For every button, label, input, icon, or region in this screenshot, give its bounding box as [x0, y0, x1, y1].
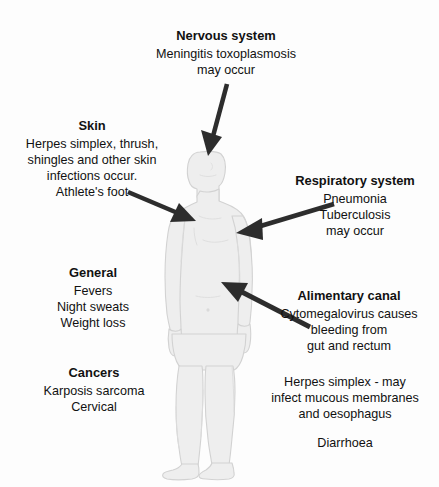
callout-respiratory-line-3: may occur [274, 223, 436, 239]
callout-extra-spacer [256, 422, 434, 435]
callout-general: General Fevers Night sweats Weight loss [22, 265, 164, 331]
callout-skin: Skin Herpes simplex, thrush, shingles an… [4, 118, 180, 200]
callout-alimentary-title: Alimentary canal [262, 288, 436, 305]
callout-nervous-line-2: may occur [142, 62, 310, 78]
callout-extra-line-1: Herpes simplex - may [256, 374, 434, 390]
callout-respiratory-line-1: Pneumonia [274, 191, 436, 207]
callout-general-line-3: Weight loss [22, 315, 164, 331]
callout-nervous-title: Nervous system [142, 28, 310, 45]
callout-skin-line-3: infections occur. [4, 168, 180, 184]
callout-herpes-diarrhoea: Herpes simplex - may infect mucous membr… [256, 374, 434, 451]
callout-alimentary-line-1: Cytomegalovirus causes [262, 306, 436, 322]
callout-skin-line-1: Herpes simplex, thrush, [4, 136, 180, 152]
callout-alimentary-line-2: bleeding from [262, 322, 436, 338]
callout-general-line-2: Night sweats [22, 299, 164, 315]
callout-nervous-line-1: Meningitis toxoplasmosis [142, 46, 310, 62]
callout-extra-line-3: and oesophagus [256, 406, 434, 422]
callout-general-line-1: Fevers [22, 283, 164, 299]
callout-cancers-line-2: Cervical [16, 399, 172, 415]
arrow-to-head [201, 84, 227, 156]
callout-cancers-title: Cancers [16, 365, 172, 382]
callout-skin-title: Skin [4, 118, 180, 135]
callout-skin-line-2: shingles and other skin [4, 152, 180, 168]
callout-skin-line-4: Athlete's foot [4, 184, 180, 200]
callout-respiratory-line-2: Tuberculosis [274, 207, 436, 223]
callout-alimentary-line-3: gut and rectum [262, 338, 436, 354]
callout-cancers-line-1: Karposis sarcoma [16, 383, 172, 399]
callout-nervous-system: Nervous system Meningitis toxoplasmosis … [142, 28, 310, 78]
callout-cancers: Cancers Karposis sarcoma Cervical [16, 365, 172, 415]
callout-respiratory-title: Respiratory system [274, 173, 436, 190]
callout-extra-line-2: infect mucous membranes [256, 390, 434, 406]
hiv-symptoms-diagram: Nervous system Meningitis toxoplasmosis … [0, 0, 439, 487]
callout-general-title: General [22, 265, 164, 282]
callout-extra-diarrhoea: Diarrhoea [256, 435, 434, 451]
callout-respiratory-system: Respiratory system Pneumonia Tuberculosi… [274, 173, 436, 239]
callout-alimentary-canal: Alimentary canal Cytomegalovirus causes … [262, 288, 436, 354]
